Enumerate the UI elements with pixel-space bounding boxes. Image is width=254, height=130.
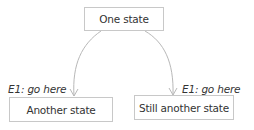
transition-label-right: E1: go here [182, 83, 240, 95]
state-another: Another state [9, 97, 113, 122]
state-still-another-label: Still another state [139, 102, 229, 114]
state-one-label: One state [99, 13, 149, 25]
transition-arrow-right [145, 31, 173, 95]
state-still-another: Still another state [134, 95, 234, 120]
transition-label-left: E1: go here [8, 83, 66, 95]
transition-arrow-left [74, 31, 101, 96]
state-one: One state [84, 7, 164, 31]
state-another-label: Another state [26, 104, 95, 116]
